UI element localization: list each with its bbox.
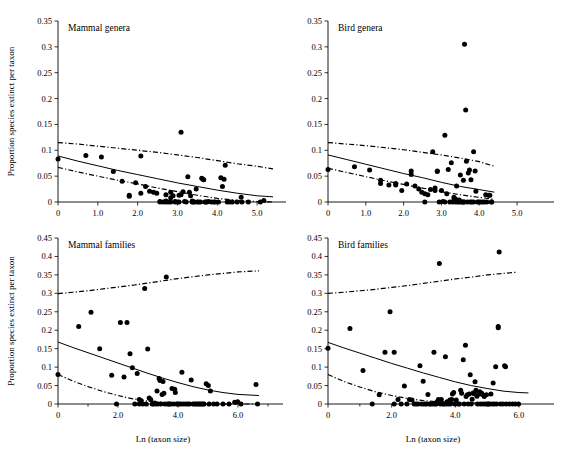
y-tick-label: 0.2 (41, 325, 52, 335)
data-point (425, 192, 430, 197)
data-point (431, 350, 436, 355)
x-tick-label: 3.0 (436, 208, 447, 218)
data-point (396, 397, 401, 402)
data-point (468, 177, 473, 182)
data-point (388, 309, 393, 314)
data-point (155, 389, 160, 394)
data-point (422, 200, 427, 205)
data-point (386, 182, 391, 187)
data-point (491, 380, 496, 385)
data-point (222, 177, 227, 182)
data-point (399, 402, 404, 407)
data-point (120, 179, 125, 184)
data-point (326, 346, 331, 351)
y-tick-label: 0.25 (307, 307, 322, 317)
y-tick-label: 0.3 (311, 288, 322, 298)
data-point (239, 402, 244, 407)
data-point (239, 200, 244, 205)
data-point (130, 365, 135, 370)
y-tick-label: 0.3 (41, 288, 52, 298)
data-point (122, 375, 127, 380)
data-point (207, 402, 212, 407)
data-point (118, 320, 123, 325)
y-tick-label: 0 (318, 197, 322, 207)
panel-title: Bird genera (338, 23, 383, 33)
x-tick-label: 6.0 (233, 410, 244, 420)
x-axis-title: Ln (taxon size) (136, 434, 190, 444)
data-point (402, 383, 407, 388)
panel-mammal-genera: Proportion species extinct per taxon00.0… (0, 0, 286, 222)
data-point (221, 402, 226, 407)
data-point (184, 200, 189, 205)
y-tick-label: 0.3 (41, 42, 52, 52)
data-point (246, 200, 251, 205)
data-point (451, 390, 456, 395)
data-point (223, 163, 228, 168)
data-point (171, 193, 176, 198)
data-point (202, 402, 207, 407)
data-point (439, 188, 444, 193)
data-point (230, 200, 235, 205)
data-point (377, 392, 382, 397)
x-tick-label: 0 (56, 410, 60, 420)
y-tick-label: 0.05 (307, 381, 322, 391)
data-point (326, 167, 331, 172)
data-point (148, 397, 153, 402)
y-tick-label: 0.1 (311, 362, 322, 372)
x-tick-label: 4.0 (173, 410, 184, 420)
x-tick-label: 0 (326, 208, 330, 218)
y-tick-label: 0.45 (37, 233, 52, 243)
x-tick-label: 5.0 (512, 208, 523, 218)
x-tick-label: 5.0 (252, 208, 263, 218)
y-tick-label: 0.15 (37, 119, 52, 129)
data-point (421, 379, 426, 384)
x-tick-label: 2.0 (113, 410, 124, 420)
data-point (138, 191, 143, 196)
x-tick-label: 3.0 (172, 208, 183, 218)
panel-title: Mammal families (68, 240, 136, 250)
data-point (448, 402, 453, 407)
data-point (473, 168, 478, 173)
data-point (404, 402, 409, 407)
panel-title: Bird families (338, 240, 388, 250)
data-point (185, 174, 190, 179)
data-point (145, 347, 150, 352)
data-point (404, 181, 409, 186)
y-tick-label: 0.25 (37, 307, 52, 317)
data-point (446, 167, 451, 172)
y-tick-label: 0.05 (307, 171, 322, 181)
data-point (461, 178, 466, 183)
data-point (235, 200, 240, 205)
y-axis-title: Proportion species extinct per taxon (6, 46, 16, 176)
data-point (484, 392, 489, 397)
upper-band-curve (58, 143, 273, 169)
data-point (473, 379, 478, 384)
y-tick-label: 0 (318, 399, 322, 409)
data-point (382, 350, 387, 355)
data-point (99, 155, 104, 160)
x-axis-title: Ln (taxon size) (406, 434, 460, 444)
data-point (254, 382, 259, 387)
data-point (179, 130, 184, 135)
data-point (467, 167, 472, 172)
data-point (133, 180, 138, 185)
data-point (189, 378, 194, 383)
data-point (462, 42, 467, 47)
data-point (435, 169, 440, 174)
y-tick-label: 0.05 (37, 171, 52, 181)
x-tick-label: 4.0 (450, 410, 461, 420)
data-point (177, 200, 182, 205)
data-point (470, 397, 475, 402)
y-tick-label: 0.1 (41, 145, 52, 155)
data-point (261, 198, 266, 203)
data-point (463, 343, 468, 348)
y-tick-label: 0.2 (41, 94, 52, 104)
data-point (437, 261, 442, 266)
y-tick-label: 0.35 (307, 270, 322, 280)
data-point (111, 169, 116, 174)
data-point (161, 379, 166, 384)
fitted-curve (58, 156, 273, 197)
panel-bird-genera: 00.050.10.150.20.250.30.3501.02.03.04.05… (286, 0, 575, 222)
data-point (154, 191, 159, 196)
data-point (132, 402, 137, 407)
